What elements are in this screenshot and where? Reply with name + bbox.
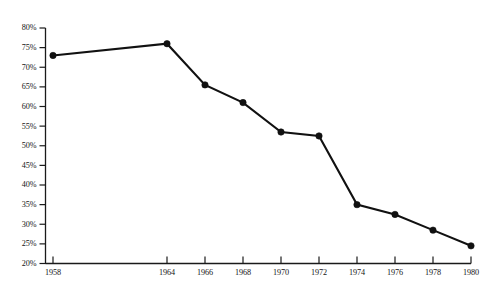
- data-point: 1976: 32.5%: [392, 211, 398, 217]
- data-point: 1974: 35%: [354, 201, 360, 207]
- y-axis-tick-label: 50%: [22, 141, 37, 150]
- x-axis-tick-label: 1972: [311, 268, 327, 277]
- y-axis-tick-label: 75%: [22, 43, 37, 52]
- y-axis-tick-label: 40%: [22, 180, 37, 189]
- x-axis-tick-label: 1978: [425, 268, 441, 277]
- y-axis-tick-label: 30%: [22, 220, 37, 229]
- data-point: 1958: 73%: [50, 52, 56, 58]
- data-point: 1964: 76%: [164, 41, 170, 47]
- data-point: 1980: 24.5%: [468, 243, 474, 249]
- chart-background: [0, 0, 487, 293]
- y-axis-tick-label: 20%: [22, 259, 37, 268]
- y-axis-tick-label: 35%: [22, 200, 37, 209]
- x-axis-tick-label: 1958: [45, 268, 61, 277]
- x-axis-tick-label: 1980: [463, 268, 479, 277]
- data-point: 1970: 53.5%: [278, 129, 284, 135]
- line-chart: 80%75%70%65%60%55%50%45%40%35%30%25%20% …: [0, 0, 487, 293]
- chart-container: 80%75%70%65%60%55%50%45%40%35%30%25%20% …: [0, 0, 487, 293]
- y-axis-tick-label: 65%: [22, 82, 37, 91]
- x-axis-tick-label: 1974: [349, 268, 365, 277]
- data-point: 1978: 28.5%: [430, 227, 436, 233]
- data-point: 1968: 61%: [240, 99, 246, 105]
- y-axis-tick-label: 60%: [22, 102, 37, 111]
- x-axis-tick-label: 1970: [273, 268, 289, 277]
- y-axis-tick-label: 80%: [22, 23, 37, 32]
- x-axis-tick-label: 1964: [159, 268, 175, 277]
- x-axis-tick-label: 1976: [387, 268, 403, 277]
- y-axis-tick-label: 55%: [22, 122, 37, 131]
- x-axis-tick-label: 1968: [235, 268, 251, 277]
- x-axis-tick-label: 1966: [197, 268, 213, 277]
- data-point: 1972: 52.5%: [316, 133, 322, 139]
- data-point: 1966: 65.5%: [202, 82, 208, 88]
- y-axis-tick-label: 25%: [22, 239, 37, 248]
- y-axis-tick-label: 45%: [22, 161, 37, 170]
- y-axis-tick-label: 70%: [22, 63, 37, 72]
